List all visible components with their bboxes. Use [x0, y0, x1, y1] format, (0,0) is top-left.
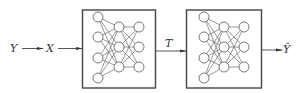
neuron-node	[199, 53, 209, 63]
neuron-node	[134, 22, 144, 32]
network-1-block	[83, 10, 156, 88]
label-y-hat: Ŷ	[283, 42, 292, 56]
network-2-block	[187, 10, 262, 88]
neuron-node	[199, 12, 209, 22]
neuron-node	[219, 42, 229, 52]
label-t: T	[165, 37, 174, 50]
neuron-node	[93, 12, 103, 22]
neuron-node	[114, 22, 124, 32]
label-y: Y	[10, 42, 19, 55]
neuron-node	[219, 62, 229, 72]
neuron-node	[134, 42, 144, 52]
neuron-node	[134, 62, 144, 72]
neuron-node	[93, 32, 103, 42]
pipeline-diagram: Y X T Ŷ	[0, 0, 300, 93]
neuron-node	[114, 62, 124, 72]
neuron-node	[114, 42, 124, 52]
neuron-node	[219, 22, 229, 32]
neuron-node	[239, 22, 249, 32]
neuron-node	[239, 62, 249, 72]
label-x: X	[45, 42, 55, 55]
neuron-node	[199, 32, 209, 42]
neuron-node	[199, 73, 209, 83]
neuron-node	[93, 73, 103, 83]
neuron-node	[239, 42, 249, 52]
neuron-node	[93, 53, 103, 63]
